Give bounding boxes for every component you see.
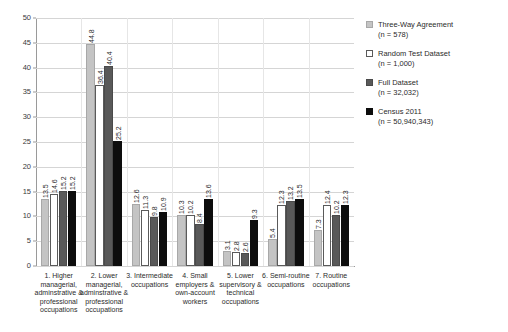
bar-value-label: 9.3	[250, 209, 257, 219]
bar-group: 13.514.615.215.2	[36, 18, 81, 266]
bar-value-label: 44.8	[87, 29, 94, 43]
bar[interactable]: 12.4	[323, 205, 332, 267]
bar-wrapper: 10.3	[177, 18, 186, 266]
bar-value-label: 12.3	[278, 190, 285, 204]
bar-value-label: 9.8	[151, 207, 158, 217]
y-axis-tick-label: 45	[23, 39, 31, 47]
bar[interactable]: 12.3	[277, 205, 286, 266]
legend-item[interactable]: Random Test Dataset(n = 1,000)	[366, 49, 504, 69]
bar-wrapper: 5.4	[268, 18, 277, 266]
legend-swatch-icon	[366, 21, 373, 28]
bar[interactable]: 12.3	[341, 205, 350, 266]
bar[interactable]: 7.3	[314, 230, 323, 266]
legend-swatch-icon	[366, 50, 373, 57]
bar[interactable]: 2.6	[241, 253, 250, 266]
y-axis-tick-label: 20	[23, 163, 31, 171]
bar-value-label: 13.2	[287, 186, 294, 200]
bar[interactable]: 44.8	[86, 44, 95, 266]
y-axis-tick-label: 35	[23, 89, 31, 97]
bar[interactable]: 40.4	[104, 66, 113, 266]
bar-value-label: 11.3	[142, 196, 149, 209]
bar-value-label: 10.2	[187, 201, 194, 215]
bar-wrapper: 3.1	[223, 18, 232, 266]
bar[interactable]: 11.3	[141, 210, 150, 266]
legend-sample-size: (n = 578)	[378, 30, 453, 40]
bar-wrapper: 13.6	[204, 18, 213, 266]
bar-wrapper: 12.3	[341, 18, 350, 266]
bar[interactable]: 2.8	[232, 252, 241, 266]
legend-item[interactable]: Full Dataset(n = 32,032)	[366, 78, 504, 98]
bar[interactable]: 9.3	[250, 220, 259, 266]
bar-value-label: 13.5	[42, 184, 49, 198]
bar[interactable]: 12.6	[132, 204, 141, 266]
legend-label: Random Test Dataset(n = 1,000)	[378, 49, 450, 69]
bar-value-label: 15.2	[60, 176, 67, 190]
bar-value-label: 12.4	[323, 190, 330, 204]
legend-sample-size: (n = 1,000)	[378, 59, 450, 69]
legend-label: Full Dataset(n = 32,032)	[378, 78, 419, 98]
bar[interactable]: 5.4	[268, 239, 277, 266]
bar-wrapper: 9.8	[150, 18, 159, 266]
bar[interactable]: 13.2	[286, 201, 295, 266]
bar[interactable]: 15.2	[68, 191, 77, 266]
bar-wrapper: 10.2	[332, 18, 341, 266]
y-axis-tick-label: 40	[23, 64, 31, 72]
bar-group: 12.611.39.810.9	[127, 18, 172, 266]
bar[interactable]: 10.2	[332, 215, 341, 266]
bar[interactable]: 10.9	[159, 212, 168, 266]
bar-wrapper: 36.4	[95, 18, 104, 266]
legend-label: Three-Way Agreement(n = 578)	[378, 20, 453, 40]
bar-wrapper: 15.2	[59, 18, 68, 266]
bar-group: 10.310.28.413.6	[172, 18, 217, 266]
legend-swatch-icon	[366, 79, 373, 86]
bar-value-label: 25.2	[114, 126, 121, 140]
bar-group: 44.836.440.425.2	[81, 18, 126, 266]
bar-value-label: 13.5	[296, 184, 303, 198]
bar[interactable]: 10.2	[186, 215, 195, 266]
bar-wrapper: 44.8	[86, 18, 95, 266]
bar[interactable]: 36.4	[95, 85, 104, 266]
bar-wrapper: 14.6	[50, 18, 59, 266]
bar-value-label: 7.3	[314, 219, 321, 229]
bar[interactable]: 10.3	[177, 215, 186, 266]
bar[interactable]: 25.2	[113, 141, 122, 266]
legend-item[interactable]: Three-Way Agreement(n = 578)	[366, 20, 504, 40]
y-axis-tick-label: 10	[23, 213, 31, 221]
bar-wrapper: 10.9	[159, 18, 168, 266]
bar-wrapper: 10.2	[186, 18, 195, 266]
bar-value-label: 5.4	[269, 228, 276, 238]
bar[interactable]: 13.5	[41, 199, 50, 266]
bar-wrapper: 8.4	[195, 18, 204, 266]
bar[interactable]: 14.6	[50, 194, 59, 266]
legend-item[interactable]: Census 2011(n = 50,940,343)	[366, 107, 504, 127]
legend-label: Census 2011(n = 50,940,343)	[378, 107, 433, 127]
y-axis-tick-label: 50	[23, 14, 31, 22]
bar-value-label: 2.8	[232, 241, 239, 251]
bar-wrapper: 13.5	[41, 18, 50, 266]
bar-value-label: 12.3	[341, 190, 348, 204]
bar[interactable]: 3.1	[223, 251, 232, 266]
grouped-bar-chart: 0510152025303540455013.514.615.215.244.8…	[0, 0, 508, 332]
bar[interactable]: 13.6	[204, 199, 213, 266]
bar-wrapper: 2.8	[232, 18, 241, 266]
bar-wrapper: 13.5	[295, 18, 304, 266]
bar-wrapper: 9.3	[250, 18, 259, 266]
bar-group: 7.312.410.212.3	[309, 18, 354, 266]
y-axis-tick-label: 5	[27, 237, 31, 245]
bar-wrapper: 12.4	[323, 18, 332, 266]
legend-swatch-icon	[366, 108, 373, 115]
bar-value-label: 14.6	[51, 179, 58, 193]
bar-wrapper: 11.3	[141, 18, 150, 266]
bar[interactable]: 8.4	[195, 224, 204, 266]
bar[interactable]: 15.2	[59, 191, 68, 266]
bar-wrapper: 40.4	[104, 18, 113, 266]
bar-value-label: 12.6	[133, 189, 140, 203]
bar-wrapper: 15.2	[68, 18, 77, 266]
bar-wrapper: 13.2	[286, 18, 295, 266]
bar-wrapper: 12.3	[277, 18, 286, 266]
bar[interactable]: 13.5	[295, 199, 304, 266]
x-axis-category-label: 7. Routine occupations	[305, 272, 358, 289]
bar[interactable]: 9.8	[150, 217, 159, 266]
bar-value-label: 13.6	[205, 184, 212, 198]
bar-group: 3.12.82.69.3	[218, 18, 263, 266]
